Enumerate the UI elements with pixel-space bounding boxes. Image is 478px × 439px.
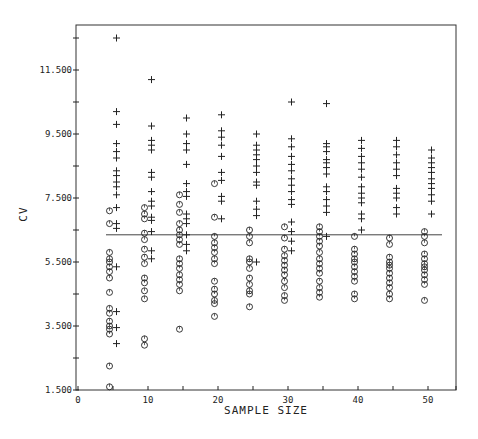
circle-marker [422, 233, 428, 239]
circle-marker [142, 246, 148, 252]
circle-marker [212, 181, 218, 187]
cross-marker [113, 340, 120, 347]
cross-marker [323, 233, 330, 240]
cross-marker [428, 169, 435, 176]
cross-marker [148, 203, 155, 210]
cross-marker [113, 148, 120, 155]
cross-marker [253, 156, 260, 163]
cross-marker [393, 204, 400, 211]
circle-marker [107, 221, 113, 227]
cross-marker [288, 182, 295, 189]
cross-marker [113, 155, 120, 162]
cross-marker [148, 255, 155, 262]
circle-marker [247, 233, 253, 239]
cross-marker [218, 127, 225, 134]
circle-marker [282, 278, 288, 284]
cross-marker [288, 135, 295, 142]
cross-marker [183, 140, 190, 147]
circle-series [107, 181, 428, 390]
circle-marker [107, 275, 113, 281]
cross-marker [288, 201, 295, 208]
cross-marker [113, 121, 120, 128]
cross-marker [428, 198, 435, 205]
cross-marker [358, 145, 365, 152]
circle-marker [107, 384, 113, 390]
cross-marker [323, 164, 330, 171]
circle-marker [282, 285, 288, 291]
circle-marker [107, 208, 113, 214]
circle-marker [422, 281, 428, 287]
circle-marker [107, 249, 113, 255]
x-axis-title: SAMPLE SIZE [224, 404, 308, 417]
cross-marker [183, 131, 190, 138]
cross-marker [183, 241, 190, 248]
cross-marker [323, 209, 330, 216]
cross-marker [323, 188, 330, 195]
cross-marker [358, 137, 365, 144]
x-tick-label: 50 [423, 395, 434, 405]
circle-marker [177, 221, 183, 227]
circle-marker [422, 240, 428, 246]
cross-marker [393, 195, 400, 202]
circle-marker [177, 209, 183, 215]
cross-marker [428, 147, 435, 154]
cross-marker [148, 174, 155, 181]
cross-marker [113, 191, 120, 198]
cross-marker [393, 137, 400, 144]
cross-marker [113, 183, 120, 190]
cross-marker [253, 163, 260, 170]
circle-marker [142, 280, 148, 286]
x-axis: 01020304050 [75, 386, 456, 405]
circle-marker [317, 278, 323, 284]
cross-marker [218, 111, 225, 118]
cross-marker [183, 147, 190, 154]
cross-marker [113, 35, 120, 42]
cross-marker [358, 227, 365, 234]
circle-marker [282, 235, 288, 241]
cross-marker [288, 161, 295, 168]
circle-marker [177, 326, 183, 332]
cross-marker [148, 123, 155, 130]
cross-marker [218, 142, 225, 149]
cross-marker [428, 185, 435, 192]
cross-marker [358, 199, 365, 206]
cross-marker [113, 204, 120, 211]
cross-marker [288, 167, 295, 174]
cross-marker [428, 211, 435, 218]
circle-marker [177, 201, 183, 207]
cross-marker [323, 100, 330, 107]
y-tick-label: 1.500 [45, 385, 72, 395]
circle-marker [177, 241, 183, 247]
circle-marker [387, 296, 393, 302]
circle-marker [212, 301, 218, 307]
cross-marker [253, 198, 260, 205]
cross-marker [113, 225, 120, 232]
cross-marker [148, 76, 155, 83]
x-tick-label: 10 [143, 395, 154, 405]
circle-marker [142, 336, 148, 342]
circle-marker [352, 233, 358, 239]
cross-marker [148, 217, 155, 224]
cross-marker [113, 172, 120, 179]
cross-marker [288, 153, 295, 160]
circle-marker [247, 281, 253, 287]
circle-marker [212, 249, 218, 255]
circle-marker [107, 331, 113, 337]
cross-marker [358, 153, 365, 160]
circle-marker [317, 249, 323, 255]
cross-marker [288, 219, 295, 226]
circle-marker [212, 278, 218, 284]
circle-marker [107, 363, 113, 369]
cross-marker [393, 151, 400, 158]
cross-marker [218, 153, 225, 160]
cross-marker [358, 166, 365, 173]
cross-marker [113, 263, 120, 270]
circle-marker [212, 313, 218, 319]
cross-marker [393, 211, 400, 218]
circle-marker [352, 278, 358, 284]
cross-marker [218, 177, 225, 184]
cross-marker [113, 324, 120, 331]
circle-marker [282, 246, 288, 252]
cross-marker [288, 228, 295, 235]
circle-marker [282, 297, 288, 303]
